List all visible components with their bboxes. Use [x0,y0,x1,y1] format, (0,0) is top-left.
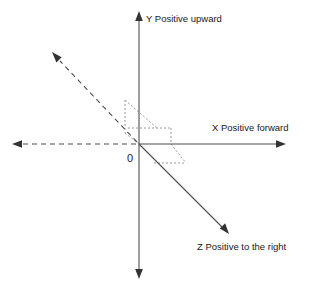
z-axis-negative [52,52,137,142]
x-axis-positive [139,140,286,148]
y-axis-label: Y Positive upward [146,14,222,24]
y-axis-down-arrowhead [135,269,143,279]
origin-label: 0 [127,153,133,164]
x-axis-label: X Positive forward [212,123,289,133]
x-axis-negative [12,140,136,148]
z-axis-positive-line [139,144,222,227]
z-axis-positive [139,144,229,234]
guide-upper-left-diagonal-bottom [125,133,139,144]
x-axis-right-arrowhead [276,140,286,148]
y-axis [135,11,143,279]
projection-guides [125,100,186,163]
x-axis-left-arrowhead [12,140,22,148]
guide-upper-left-diagonal-top [125,100,157,128]
y-axis-up-arrowhead [135,11,143,21]
coordinate-axes-diagram: Y Positive upward X Positive forward Z P… [0,0,313,284]
z-axis-label: Z Positive to the right [197,242,286,252]
z-axis-positive-arrowhead [220,223,229,234]
guide-lower-right-diagonal [171,144,186,163]
